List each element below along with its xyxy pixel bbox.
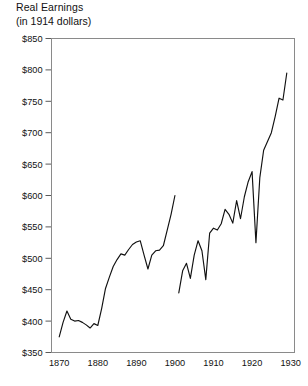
y-tick-label: $350 xyxy=(22,348,42,358)
data-series-layer xyxy=(59,73,287,337)
y-axis-ticks xyxy=(46,39,52,353)
y-tick-label: $550 xyxy=(22,222,42,232)
x-tick-label: 1870 xyxy=(49,358,69,368)
y-tick-label: $600 xyxy=(22,191,42,201)
chart-container: Real Earnings (in 1914 dollars) $350$400… xyxy=(0,0,308,386)
y-tick-label: $700 xyxy=(22,128,42,138)
y-tick-label: $400 xyxy=(22,317,42,327)
x-tick-label: 1920 xyxy=(242,358,262,368)
plot-frame xyxy=(52,39,295,353)
y-tick-label: $800 xyxy=(22,65,42,75)
x-tick-label: 1890 xyxy=(126,358,146,368)
x-tick-label: 1900 xyxy=(165,358,185,368)
y-tick-label: $650 xyxy=(22,160,42,170)
x-tick-label: 1930 xyxy=(280,358,300,368)
y-axis-labels: $350$400$450$500$550$600$650$700$750$800… xyxy=(22,34,42,358)
y-tick-label: $750 xyxy=(22,97,42,107)
y-tick-label: $500 xyxy=(22,254,42,264)
series-line-0 xyxy=(59,196,175,337)
x-tick-label: 1910 xyxy=(203,358,223,368)
x-tick-label: 1880 xyxy=(88,358,108,368)
y-tick-label: $850 xyxy=(22,34,42,44)
chart-plot-area: $350$400$450$500$550$600$650$700$750$800… xyxy=(0,0,308,386)
x-axis-labels: 1870188018901900191019201930 xyxy=(49,358,301,368)
series-line-1 xyxy=(179,73,287,293)
y-tick-label: $450 xyxy=(22,285,42,295)
